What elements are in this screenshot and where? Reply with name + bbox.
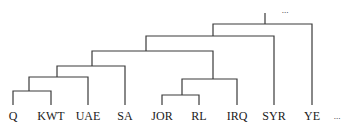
branch-gulf-levant bbox=[92, 51, 213, 79]
dendrogram-branches bbox=[13, 13, 312, 105]
leaf-label: KWT bbox=[37, 109, 65, 123]
top-ellipsis: ... bbox=[282, 5, 289, 15]
leaf-label: UAE bbox=[76, 109, 101, 123]
leaf-label: JOR bbox=[151, 109, 172, 123]
leaf-label: Q bbox=[9, 109, 18, 123]
branch-jorrl-irq bbox=[182, 79, 237, 105]
dendrogram: Q KWT UAE SA JOR RL IRQ SYR YE ... ... bbox=[0, 0, 350, 129]
branch-q-kwt bbox=[13, 91, 51, 105]
leaf-label: SA bbox=[117, 109, 133, 123]
trailing-ellipsis: ... bbox=[334, 111, 341, 121]
leaf-label: IRQ bbox=[227, 109, 248, 123]
branch-gulf-sa bbox=[57, 66, 125, 105]
leaf-label: YE bbox=[304, 109, 320, 123]
branch-jor-rl bbox=[162, 95, 199, 105]
leaf-label: RL bbox=[191, 109, 206, 123]
leaf-labels: Q KWT UAE SA JOR RL IRQ SYR YE ... ... bbox=[9, 5, 341, 123]
leaf-label: SYR bbox=[262, 109, 285, 123]
